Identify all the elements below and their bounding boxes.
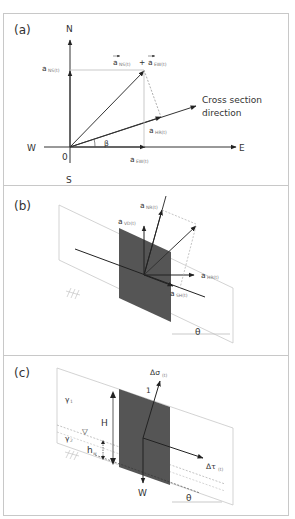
- shear-stress-base: Δτ: [206, 462, 216, 471]
- water-depth-label-sub: w: [93, 451, 97, 456]
- resultant-label: a NS(t) + a EW(t): [113, 56, 167, 67]
- normal-stress-base: Δσ: [150, 368, 160, 377]
- height-arrow-down-icon: [110, 458, 116, 465]
- ground-hatch-icon: [65, 450, 79, 460]
- panel-a: (a) N S E W 0 β a NS(t) a EW(t) a: [14, 23, 262, 185]
- slope-ratio-label: 1: [146, 386, 151, 395]
- projection-guide-line: [144, 70, 161, 117]
- beta-label: β: [104, 139, 109, 148]
- sum-s1: NS(t): [119, 62, 131, 67]
- nr-label-sub: NR(t): [146, 205, 158, 210]
- hr-label-b: a HR(t): [201, 271, 219, 280]
- normal-stress-label: Δσ (t): [150, 368, 168, 378]
- theta-label-c: θ: [186, 493, 192, 503]
- ew-label-base: a: [130, 155, 135, 164]
- hr-label-sub: HR(t): [155, 130, 167, 135]
- ground-hatch-icon: [66, 288, 80, 299]
- guide-nr: [162, 210, 196, 224]
- south-label: S: [66, 175, 72, 185]
- theta-label-b: θ: [195, 327, 201, 337]
- sh-label-sub: SH(t): [176, 293, 188, 298]
- west-label: W: [27, 143, 36, 153]
- hr-component-arrow: [70, 117, 161, 147]
- cross-section-label-line2: direction: [202, 108, 241, 118]
- hr-label-base: a: [149, 126, 154, 135]
- ew-label-sub: EW(t): [136, 159, 149, 164]
- guide-sh: [180, 226, 196, 288]
- shear-stress-sub: (t): [218, 467, 224, 472]
- gamma1-sub: 1: [70, 399, 73, 404]
- gamma2-label: γ 2: [65, 434, 73, 443]
- vd-label-sub: VD(t): [124, 221, 136, 226]
- sh-label: a SH(t): [170, 289, 188, 298]
- water-depth-label-base: h: [87, 445, 93, 455]
- cross-section-label-line1: Cross section: [202, 95, 262, 105]
- sum-s2: EW(t): [154, 62, 167, 67]
- origin-label: 0: [62, 152, 68, 162]
- resultant-arrow: [70, 71, 144, 147]
- sh-label-base: a: [170, 289, 175, 298]
- normal-stress-sub: (t): [162, 373, 168, 378]
- hr-label: a HR(t): [149, 126, 167, 135]
- soil-slice-c: [119, 389, 170, 485]
- vd-label: a VD(t): [118, 217, 136, 226]
- sum-plus: +: [139, 58, 145, 67]
- ns-label-base: a: [42, 64, 47, 73]
- water-depth-label: h w: [87, 445, 97, 456]
- weight-label: W: [138, 488, 147, 498]
- gamma2-sub: 2: [70, 438, 73, 443]
- vd-label-base: a: [118, 217, 123, 226]
- east-label: E: [239, 143, 245, 153]
- sum-a1: a: [113, 58, 118, 67]
- panel-b: (b) θ a NR(t) a: [14, 196, 233, 343]
- beta-arc: [94, 139, 95, 147]
- figure-canvas: (a) N S E W 0 β a NS(t) a EW(t) a: [0, 0, 295, 519]
- ns-label: a NS(t): [42, 64, 60, 73]
- hr-label-b-sub: HR(t): [207, 275, 219, 280]
- sum-a2: a: [148, 58, 153, 67]
- ew-label: a EW(t): [130, 155, 149, 164]
- panel-b-label: (b): [14, 199, 31, 213]
- height-arrow-up-icon: [110, 391, 116, 398]
- panel-a-label: (a): [14, 23, 31, 37]
- ns-label-sub: NS(t): [48, 68, 60, 73]
- nr-label-base: a: [140, 201, 145, 210]
- shear-stress-label: Δτ (t): [206, 462, 224, 472]
- nr-label: a NR(t): [140, 201, 158, 210]
- panel-c: (c) H h w ▽ γ 1 γ 2: [14, 366, 233, 505]
- gamma1-label: γ 1: [65, 395, 73, 404]
- hr-label-b-base: a: [201, 271, 206, 280]
- water-table-icon: ▽: [82, 427, 88, 436]
- panel-c-label: (c): [14, 366, 30, 380]
- height-label: H: [101, 418, 108, 428]
- north-label: N: [66, 24, 73, 34]
